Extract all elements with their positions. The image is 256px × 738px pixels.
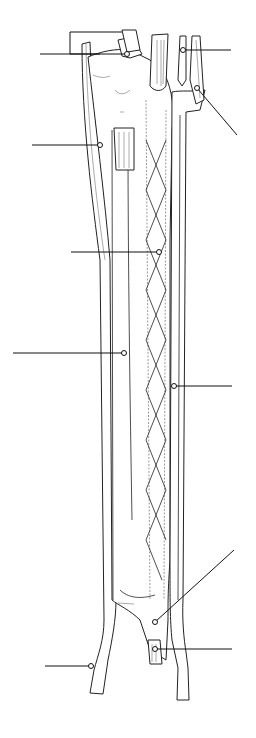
leader-R2 [197, 88, 237, 135]
tibia-fibula-drawing [0, 0, 256, 738]
anatomy-diagram [0, 0, 256, 738]
right-bone [170, 90, 205, 700]
